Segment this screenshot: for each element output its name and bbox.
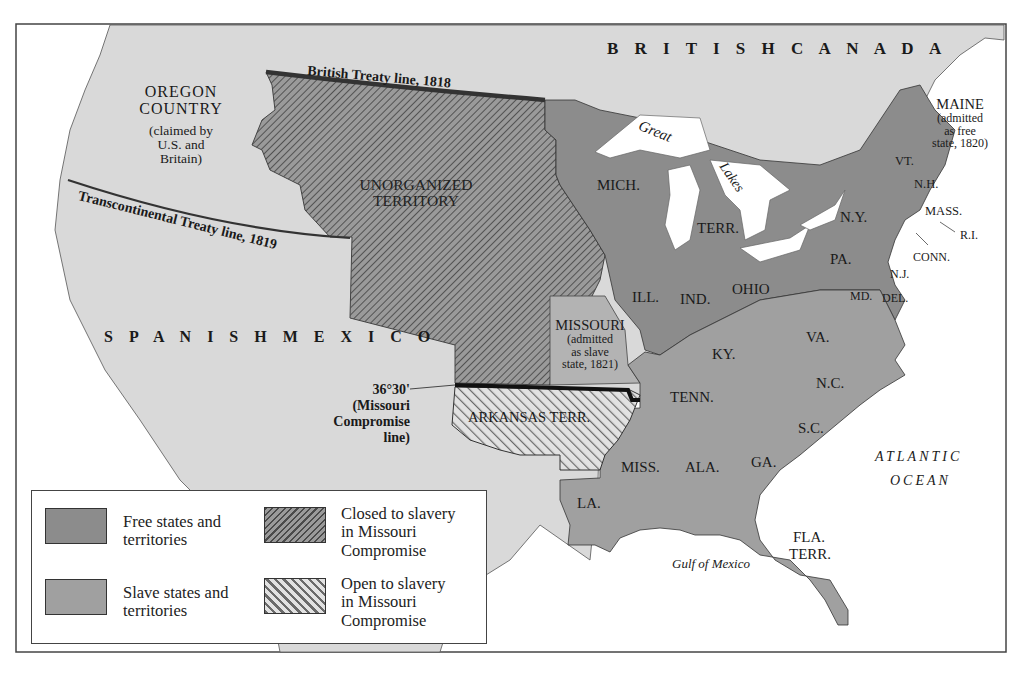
state-nj: N.J. (890, 268, 909, 281)
label-unorganized-territory: UNORGANIZED TERRITORY (336, 177, 496, 210)
state-miss: MISS. (621, 460, 660, 476)
legend-label-open: Open to slavery in Missouri Compromise (341, 575, 445, 630)
oregon-note-3: Britain) (131, 152, 231, 166)
legend-swatch-slave (45, 579, 107, 615)
maine-note-1: (admitted (925, 112, 995, 125)
legend-open-line-2: in Missouri (341, 593, 445, 611)
legend-free-line-2: territories (123, 531, 221, 549)
legend-open-line-3: Compromise (341, 612, 445, 630)
state-tenn: TENN. (670, 390, 714, 406)
state-ri: R.I. (960, 229, 978, 242)
legend-label-closed: Closed to slavery in Missouri Compromise (341, 505, 456, 560)
oregon-title-2: COUNTRY (131, 101, 231, 118)
legend-open-line-1: Open to slavery (341, 575, 445, 593)
label-maine: MAINE (admitted as free state, 1820) (925, 97, 995, 150)
compromise-label-1: 36°30' (310, 382, 410, 398)
oregon-note-2: U.S. and (131, 138, 231, 152)
legend-swatch-closed (264, 507, 326, 543)
legend-closed-line-1: Closed to slavery (341, 505, 456, 523)
state-ga: GA. (751, 455, 776, 471)
unorganized-line-2: TERRITORY (336, 193, 496, 209)
state-ind: IND. (680, 292, 710, 308)
compromise-label-2: (Missouri (310, 398, 410, 414)
label-missouri: MISSOURI (admitted as slave state, 1821) (540, 318, 640, 371)
state-la: LA. (577, 496, 601, 512)
legend-label-free: Free states and territories (123, 513, 221, 550)
label-compromise-line: 36°30' (Missouri Compromise line) (310, 382, 410, 446)
missouri-title: MISSOURI (540, 318, 640, 333)
map-legend: Free states and territories Slave states… (31, 490, 487, 644)
label-british-canada: B R I T I S H C A N A D A (607, 40, 947, 58)
legend-swatch-free (45, 508, 107, 544)
state-mass: MASS. (925, 205, 962, 218)
missouri-note-3: state, 1821) (540, 358, 640, 371)
maine-note-3: state, 1820) (925, 137, 995, 150)
state-sc: S.C. (798, 421, 824, 437)
state-fla-2: TERR. (789, 547, 831, 563)
legend-swatch-open (264, 578, 326, 614)
state-nh: N.H. (914, 178, 938, 191)
state-ohio: OHIO (732, 282, 770, 298)
state-pa: PA. (830, 252, 852, 268)
legend-slave-line-2: territories (123, 602, 228, 620)
legend-slave-line-1: Slave states and (123, 584, 228, 602)
label-atlantic: ATLANTIC (875, 450, 962, 465)
oregon-title-1: OREGON (131, 84, 231, 101)
state-conn: CONN. (913, 251, 950, 264)
label-gulf-of-mexico: Gulf of Mexico (672, 557, 750, 571)
state-nc: N.C. (816, 376, 844, 392)
legend-free-line-1: Free states and (123, 513, 221, 531)
compromise-label-4: line) (310, 430, 410, 446)
legend-closed-line-3: Compromise (341, 542, 456, 560)
state-ky: KY. (712, 347, 735, 363)
label-spanish-mexico: S P A N I S H M E X I C O (104, 329, 436, 346)
state-md: MD. (850, 290, 872, 303)
legend-label-slave: Slave states and territories (123, 584, 228, 621)
legend-closed-line-2: in Missouri (341, 523, 456, 541)
state-vt: VT. (895, 155, 914, 168)
missouri-note-1: (admitted (540, 333, 640, 346)
label-ocean: OCEAN (890, 474, 951, 489)
unorganized-line-1: UNORGANIZED (336, 177, 496, 193)
maine-title: MAINE (925, 97, 995, 112)
state-michigan-terr: TERR. (697, 221, 739, 237)
state-va: VA. (806, 330, 829, 346)
state-ny: N.Y. (840, 210, 867, 226)
state-mich: MICH. (597, 178, 640, 194)
oregon-note-1: (claimed by (131, 124, 231, 138)
compromise-label-3: Compromise (310, 414, 410, 430)
state-del: DEL. (882, 292, 908, 305)
state-fla-1: FLA. (793, 530, 825, 546)
state-ill: ILL. (632, 290, 659, 306)
label-oregon-country: OREGON COUNTRY (claimed by U.S. and Brit… (131, 84, 231, 166)
state-ala: ALA. (685, 460, 720, 476)
label-arkansas-territory: ARKANSAS TERR. (468, 410, 590, 425)
